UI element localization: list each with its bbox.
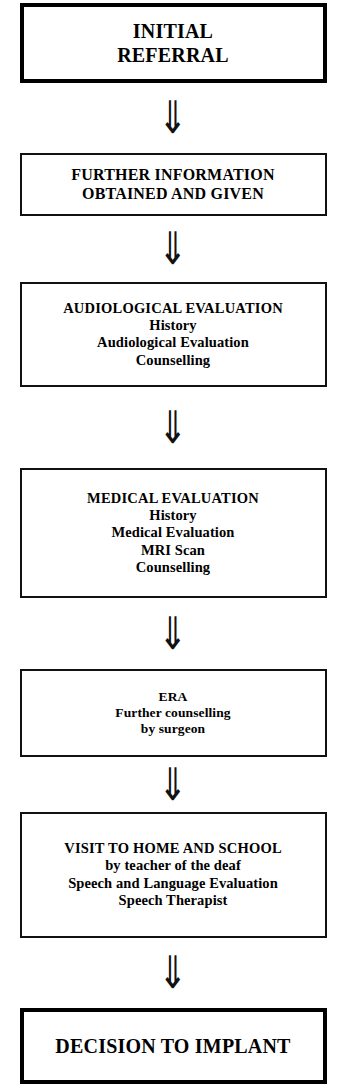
double-down-arrow-icon: ⇓	[159, 761, 188, 806]
flow-node-line: Speech Therapist	[119, 892, 228, 909]
flow-node-decision-to-implant: DECISION TO IMPLANT	[20, 1008, 327, 1084]
flow-node-title: ERA	[158, 689, 187, 705]
flow-node-line: by teacher of the deaf	[105, 857, 241, 874]
flow-node-title: MEDICAL EVALUATION	[87, 490, 259, 507]
flow-node-line: Counselling	[136, 559, 210, 576]
flow-node-line: Counselling	[136, 352, 210, 369]
flow-connector-4: ⇓	[153, 598, 193, 669]
flow-connector-2: ⇓	[153, 216, 193, 282]
flow-node-title: VISIT TO HOME AND SCHOOL	[64, 840, 282, 857]
flow-connector-6: ⇓	[153, 938, 193, 1008]
flow-node-title: FURTHER INFORMATION OBTAINED AND GIVEN	[71, 166, 274, 204]
double-down-arrow-icon: ⇓	[159, 226, 188, 271]
flow-node-visit-home-school: VISIT TO HOME AND SCHOOL by teacher of t…	[20, 812, 327, 938]
flow-node-further-information: FURTHER INFORMATION OBTAINED AND GIVEN	[20, 153, 327, 216]
double-down-arrow-icon: ⇓	[159, 404, 188, 449]
flow-node-line: Further counselling	[115, 705, 230, 721]
double-down-arrow-icon: ⇓	[159, 950, 188, 995]
flow-node-line: Medical Evaluation	[111, 524, 234, 541]
flow-node-title: INITIAL REFERRAL	[117, 19, 229, 68]
flow-connector-3: ⇓	[153, 387, 193, 468]
flow-node-title: AUDIOLOGICAL EVALUATION	[63, 300, 283, 317]
double-down-arrow-icon: ⇓	[159, 610, 188, 655]
flow-node-line: by surgeon	[141, 721, 205, 737]
flow-node-line: Speech and Language Evaluation	[68, 875, 278, 892]
flowchart-diagram: INITIAL REFERRAL ⇓ FURTHER INFORMATION O…	[0, 0, 346, 1088]
flow-node-title: DECISION TO IMPLANT	[55, 1034, 290, 1058]
double-down-arrow-icon: ⇓	[159, 95, 188, 140]
flow-node-initial-referral: INITIAL REFERRAL	[20, 3, 327, 83]
flow-node-line: MRI Scan	[141, 542, 205, 559]
flow-node-line: History	[149, 507, 196, 524]
flow-connector-1: ⇓	[153, 83, 193, 153]
flow-node-audiological-evaluation: AUDIOLOGICAL EVALUATION History Audiolog…	[20, 282, 327, 387]
flow-connector-5: ⇓	[153, 757, 193, 812]
flow-node-medical-evaluation: MEDICAL EVALUATION History Medical Evalu…	[20, 468, 327, 598]
flow-node-line: History	[149, 317, 196, 334]
flow-node-line: Audiological Evaluation	[97, 334, 249, 351]
flow-node-era: ERA Further counselling by surgeon	[20, 669, 327, 757]
